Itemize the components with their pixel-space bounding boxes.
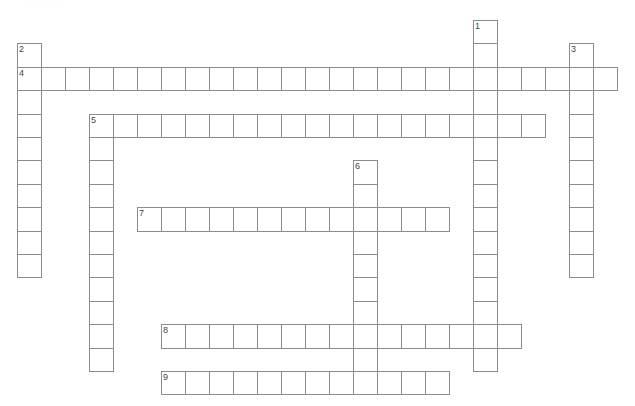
crossword-cell[interactable] <box>185 67 210 91</box>
crossword-cell[interactable] <box>353 254 378 278</box>
crossword-cell[interactable]: 2 <box>17 43 42 68</box>
crossword-cell[interactable]: 3 <box>569 43 594 68</box>
crossword-cell[interactable] <box>593 67 618 91</box>
crossword-cell[interactable] <box>17 114 42 138</box>
crossword-cell[interactable] <box>521 67 546 91</box>
crossword-cell[interactable] <box>401 371 426 395</box>
crossword-cell[interactable] <box>425 67 450 91</box>
crossword-cell[interactable]: 4 <box>17 67 42 91</box>
crossword-cell[interactable] <box>89 184 114 208</box>
crossword-cell[interactable] <box>353 348 378 372</box>
crossword-cell[interactable] <box>209 207 234 232</box>
crossword-cell[interactable] <box>89 137 114 161</box>
crossword-cell[interactable] <box>161 207 186 232</box>
crossword-cell[interactable] <box>113 67 138 91</box>
crossword-cell[interactable] <box>17 207 42 232</box>
crossword-cell[interactable] <box>257 371 282 395</box>
crossword-cell[interactable]: 8 <box>161 324 186 349</box>
crossword-cell[interactable] <box>497 324 522 349</box>
crossword-cell[interactable] <box>449 324 474 349</box>
crossword-cell[interactable] <box>353 324 378 349</box>
crossword-cell[interactable] <box>17 254 42 278</box>
crossword-cell[interactable]: 6 <box>353 160 378 185</box>
crossword-cell[interactable] <box>473 184 498 208</box>
crossword-cell[interactable] <box>569 184 594 208</box>
crossword-cell[interactable] <box>17 231 42 255</box>
crossword-cell[interactable] <box>113 114 138 138</box>
crossword-cell[interactable] <box>89 348 114 372</box>
crossword-cell[interactable] <box>41 67 66 91</box>
crossword-cell[interactable] <box>473 67 498 91</box>
crossword-cell[interactable] <box>89 67 114 91</box>
crossword-cell[interactable] <box>89 301 114 325</box>
crossword-cell[interactable] <box>353 231 378 255</box>
crossword-cell[interactable] <box>329 114 354 138</box>
crossword-cell[interactable] <box>569 231 594 255</box>
crossword-cell[interactable] <box>89 254 114 278</box>
crossword-cell[interactable] <box>185 371 210 395</box>
crossword-cell[interactable] <box>89 277 114 302</box>
crossword-cell[interactable] <box>569 160 594 185</box>
crossword-cell[interactable] <box>353 371 378 395</box>
crossword-cell[interactable] <box>17 137 42 161</box>
crossword-cell[interactable] <box>233 114 258 138</box>
crossword-cell[interactable] <box>473 277 498 302</box>
crossword-cell[interactable]: 7 <box>137 207 162 232</box>
crossword-cell[interactable] <box>353 184 378 208</box>
crossword-cell[interactable] <box>257 67 282 91</box>
crossword-cell[interactable] <box>137 114 162 138</box>
crossword-cell[interactable] <box>473 254 498 278</box>
crossword-cell[interactable] <box>377 324 402 349</box>
crossword-cell[interactable] <box>569 254 594 278</box>
crossword-cell[interactable] <box>425 114 450 138</box>
crossword-cell[interactable] <box>281 324 306 349</box>
crossword-cell[interactable] <box>569 137 594 161</box>
crossword-cell[interactable] <box>569 90 594 115</box>
crossword-cell[interactable] <box>329 207 354 232</box>
crossword-cell[interactable] <box>473 114 498 138</box>
crossword-cell[interactable] <box>65 67 90 91</box>
crossword-cell[interactable] <box>473 43 498 68</box>
crossword-cell[interactable] <box>305 371 330 395</box>
crossword-cell[interactable] <box>329 324 354 349</box>
crossword-cell[interactable] <box>305 207 330 232</box>
crossword-cell[interactable] <box>473 160 498 185</box>
crossword-cell[interactable] <box>89 160 114 185</box>
crossword-cell[interactable] <box>233 324 258 349</box>
crossword-cell[interactable] <box>497 114 522 138</box>
crossword-cell[interactable] <box>473 231 498 255</box>
crossword-cell[interactable] <box>185 114 210 138</box>
crossword-cell[interactable] <box>281 207 306 232</box>
crossword-cell[interactable] <box>473 137 498 161</box>
crossword-cell[interactable] <box>17 184 42 208</box>
crossword-cell[interactable] <box>569 207 594 232</box>
crossword-cell[interactable] <box>329 371 354 395</box>
crossword-cell[interactable] <box>569 67 594 91</box>
crossword-cell[interactable] <box>137 67 162 91</box>
crossword-cell[interactable] <box>425 371 450 395</box>
crossword-cell[interactable] <box>401 67 426 91</box>
crossword-cell[interactable] <box>281 371 306 395</box>
crossword-cell[interactable] <box>473 90 498 115</box>
crossword-cell[interactable] <box>449 114 474 138</box>
crossword-cell[interactable] <box>401 114 426 138</box>
crossword-cell[interactable] <box>161 67 186 91</box>
crossword-cell[interactable] <box>425 324 450 349</box>
crossword-cell[interactable] <box>89 324 114 349</box>
crossword-cell[interactable]: 9 <box>161 371 186 395</box>
crossword-cell[interactable] <box>353 301 378 325</box>
crossword-cell[interactable] <box>233 67 258 91</box>
crossword-cell[interactable] <box>425 207 450 232</box>
crossword-cell[interactable] <box>161 114 186 138</box>
crossword-cell[interactable] <box>401 324 426 349</box>
crossword-cell[interactable] <box>17 90 42 115</box>
crossword-cell[interactable] <box>17 160 42 185</box>
crossword-cell[interactable] <box>209 67 234 91</box>
crossword-cell[interactable] <box>233 207 258 232</box>
crossword-cell[interactable] <box>305 114 330 138</box>
crossword-cell[interactable] <box>353 277 378 302</box>
crossword-cell[interactable]: 1 <box>473 20 498 44</box>
crossword-cell[interactable] <box>257 324 282 349</box>
crossword-cell[interactable] <box>521 114 546 138</box>
crossword-cell[interactable] <box>329 67 354 91</box>
